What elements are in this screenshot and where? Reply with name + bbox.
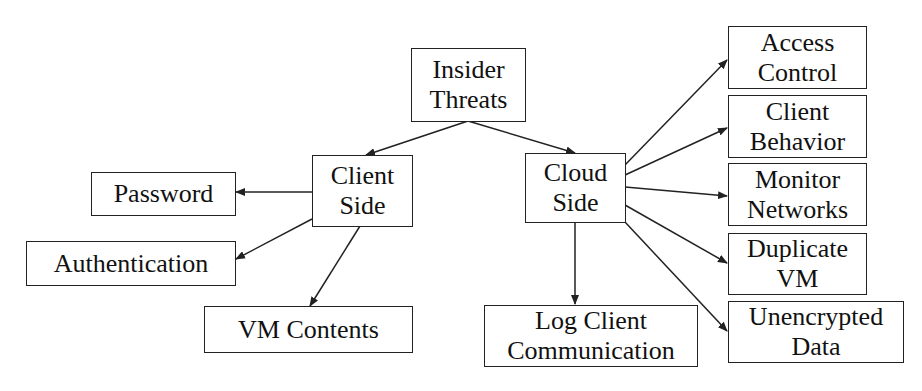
node-label-line: Communication bbox=[507, 336, 675, 366]
node-authentication: Authentication bbox=[26, 241, 236, 286]
node-label-line: Client bbox=[766, 97, 830, 127]
node-label-line: VM bbox=[777, 264, 819, 294]
edge-insider-cloud bbox=[468, 121, 575, 153]
node-label-line: Networks bbox=[747, 195, 848, 225]
node-label-line: Control bbox=[758, 58, 837, 88]
node-label-line: Data bbox=[791, 332, 840, 362]
node-client-behavior: Client Behavior bbox=[728, 95, 867, 158]
node-label-line: Monitor bbox=[755, 165, 840, 195]
node-label-line: Client bbox=[331, 161, 395, 191]
node-cloud-side: Cloud Side bbox=[525, 153, 626, 223]
edge-cloud-behavior bbox=[625, 128, 727, 175]
node-label-line: Behavior bbox=[750, 127, 845, 157]
node-label-line: Side bbox=[339, 191, 385, 221]
node-log-client-communication: Log Client Communication bbox=[484, 305, 698, 367]
node-label-line: Cloud bbox=[544, 158, 608, 188]
node-label-line: Authentication bbox=[54, 249, 209, 279]
node-label-line: Duplicate bbox=[747, 234, 848, 264]
edge-cloud-duplicate bbox=[625, 205, 727, 263]
node-client-side: Client Side bbox=[312, 155, 413, 227]
node-duplicate-vm: Duplicate VM bbox=[728, 233, 867, 295]
edge-client-vmcontents bbox=[310, 226, 360, 306]
node-access-control: Access Control bbox=[728, 26, 867, 89]
edge-cloud-monitor bbox=[625, 187, 727, 196]
node-label-line: Side bbox=[552, 188, 598, 218]
node-label-line: Password bbox=[114, 179, 214, 209]
node-label-line: VM Contents bbox=[238, 315, 379, 345]
node-password: Password bbox=[91, 172, 236, 216]
edge-cloud-access bbox=[625, 60, 727, 165]
node-vm-contents: VM Contents bbox=[204, 306, 413, 353]
edge-client-authentication bbox=[236, 219, 312, 259]
edge-insider-client bbox=[366, 121, 468, 155]
node-label-line: Threats bbox=[430, 85, 508, 115]
node-insider-threats: Insider Threats bbox=[411, 48, 526, 122]
node-unencrypted-data: Unencrypted Data bbox=[728, 301, 904, 363]
node-monitor-networks: Monitor Networks bbox=[728, 163, 867, 226]
node-label-line: Access bbox=[761, 28, 835, 58]
node-label-line: Log Client bbox=[535, 306, 647, 336]
node-label-line: Insider bbox=[432, 55, 504, 85]
node-label-line: Unencrypted bbox=[749, 302, 883, 332]
